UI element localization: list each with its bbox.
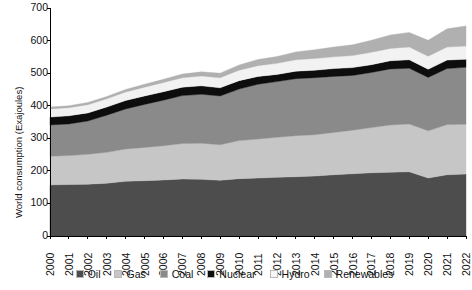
y-tick-label: 300 [14,132,48,143]
legend-item-coal[interactable]: Coal [160,268,194,280]
legend-swatch-icon [76,270,84,278]
legend-swatch-icon [114,270,122,278]
chart-legend: OilGasCoalNuclearHydroRenewables [0,268,469,280]
legend-item-nuclear[interactable]: Nuclear [207,268,255,280]
legend-item-hydro[interactable]: Hydro [270,268,310,280]
legend-label: Hydro [282,268,310,280]
legend-swatch-icon [160,270,168,278]
legend-label: Nuclear [219,268,255,280]
legend-label: Oil [88,268,101,280]
y-tick-label: 500 [14,67,48,78]
y-tick-label: 600 [14,35,48,46]
legend-swatch-icon [270,270,278,278]
y-tick-label: 200 [14,165,48,176]
y-tick-label: 700 [14,2,48,13]
y-tick-label: 400 [14,100,48,111]
legend-item-oil[interactable]: Oil [76,268,101,280]
legend-item-gas[interactable]: Gas [114,268,145,280]
legend-label: Coal [172,268,194,280]
legend-label: Gas [126,268,145,280]
y-tick-label: 0 [14,230,48,241]
legend-swatch-icon [324,270,332,278]
legend-swatch-icon [207,270,215,278]
y-tick-label: 100 [14,197,48,208]
legend-label: Renewables [336,268,394,280]
legend-item-renewables[interactable]: Renewables [324,268,394,280]
